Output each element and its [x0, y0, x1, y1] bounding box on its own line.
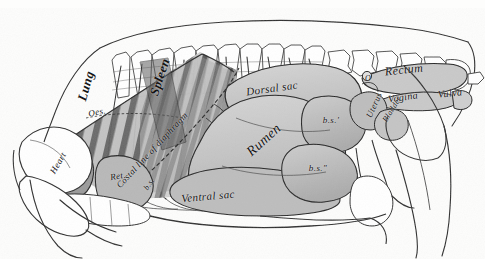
vagina	[378, 92, 457, 111]
anatomical-figure: LungOes.SpleenCostal line of diaphragmHe…	[0, 0, 485, 259]
ovary	[362, 71, 371, 80]
femur	[408, 120, 430, 210]
bladder	[375, 109, 409, 140]
hindleg	[392, 126, 451, 258]
vulva	[452, 90, 472, 109]
anatomy-drawing	[0, 0, 485, 259]
